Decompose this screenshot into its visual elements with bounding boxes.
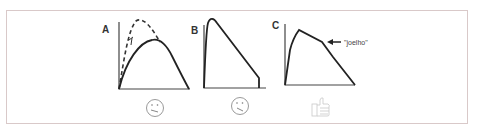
knee-arrow-icon — [327, 39, 341, 45]
panel-c-axes — [285, 24, 355, 85]
thumbs-up-icon — [312, 98, 329, 116]
panel-a: A — [102, 20, 190, 117]
panel-a-dashed-curve — [119, 20, 160, 89]
sad-face-icon — [232, 98, 249, 115]
panel-b-solid-curve — [204, 19, 259, 88]
knee-annotation: "joelho" — [344, 39, 368, 47]
sad-face-icon — [147, 100, 164, 117]
panel-b-axes — [204, 25, 266, 88]
panel-b: B — [191, 19, 266, 115]
panel-c: C "joelho" — [272, 20, 368, 116]
panel-c-label: C — [272, 20, 279, 31]
panel-b-label: B — [191, 25, 198, 36]
figure-canvas: A B C "joelho" — [0, 0, 477, 132]
panel-a-label: A — [102, 24, 109, 35]
panel-a-solid-curve — [119, 40, 189, 89]
panel-a-shift-arrow-icon — [129, 37, 133, 45]
